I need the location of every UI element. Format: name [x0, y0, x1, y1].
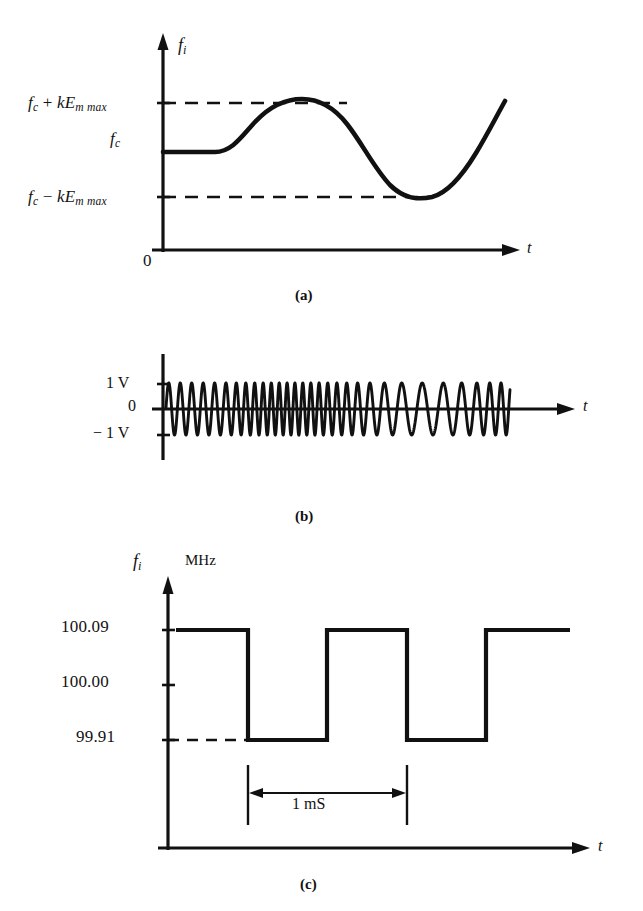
panel-a-tick-label-lower: fc − kEm max [28, 188, 107, 205]
figure-fm-waveforms: fc + kEm max fc fc − kEm max fi t 0 (a) … [0, 0, 643, 911]
panel-a-y-arrowhead [158, 33, 169, 50]
panel-c-tick-label-9991: 99.91 [76, 728, 115, 745]
panel-b-fm-waveform [166, 383, 510, 435]
panel-a-caption: (a) [295, 287, 313, 304]
panel-a-origin-label: 0 [143, 252, 152, 269]
panel-a-x-axis-label: t [527, 240, 531, 256]
panel-a-curve [163, 99, 505, 198]
panel-b-x-axis-label: t [583, 398, 587, 414]
panel-c-y-arrowhead [163, 576, 174, 594]
panel-c-plot [0, 560, 643, 890]
panel-b-tick-label-plus1: 1 V [106, 375, 129, 391]
panel-c-x-arrowhead [572, 842, 590, 854]
panel-c-tick-label-10009: 100.09 [61, 618, 109, 635]
panel-b-x-arrowhead [557, 403, 575, 415]
panel-c-period-label: 1 mS [292, 796, 325, 812]
panel-c-x-axis-label: t [598, 838, 602, 854]
panel-c-y-axis-label: fi [133, 552, 141, 570]
panel-a-tick-label-upper: fc + kEm max [28, 94, 107, 111]
panel-c-caption: (c) [300, 876, 317, 893]
panel-c-tick-label-10000: 100.00 [61, 673, 109, 690]
panel-c-y-axis-unit: MHz [185, 553, 216, 568]
panel-b-tick-label-minus1: − 1 V [93, 425, 129, 441]
panel-a-y-axis-label: fi [178, 36, 186, 54]
panel-c-square-wave [176, 630, 570, 740]
panel-b-tick-label-zero: 0 [128, 398, 136, 414]
panel-c-period-arrowhead-right [392, 788, 406, 798]
panel-b-caption: (b) [295, 508, 313, 525]
panel-b-plot [0, 340, 643, 480]
panel-a-plot [0, 0, 643, 300]
panel-a-x-arrowhead [502, 244, 520, 256]
panel-a-tick-label-carrier: fc [110, 130, 120, 147]
panel-c-period-arrowhead-left [249, 788, 263, 798]
